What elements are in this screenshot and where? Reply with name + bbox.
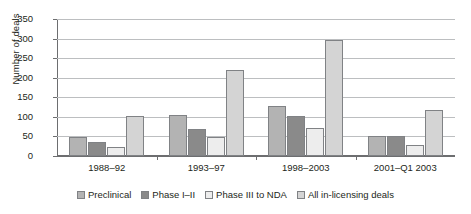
legend-item[interactable]: Phase I–II xyxy=(141,190,195,200)
legend-label: Phase I–II xyxy=(152,190,195,200)
chart-legend: PreclinicalPhase I–IIPhase III to NDAAll… xyxy=(0,190,471,200)
x-axis-labels: 1988–921993–971998–20032001–Q1 2003 xyxy=(57,162,455,173)
y-tick-label: 100 xyxy=(0,112,33,122)
bar-slot xyxy=(287,19,305,156)
bar-slot xyxy=(88,19,106,156)
bar[interactable] xyxy=(207,137,225,156)
bar[interactable] xyxy=(406,145,424,156)
bar[interactable] xyxy=(69,137,87,156)
bar-group xyxy=(57,19,157,156)
x-axis-label: 2001–Q1 2003 xyxy=(356,162,456,173)
y-tick-label: 350 xyxy=(0,14,33,24)
bar-slot xyxy=(188,19,206,156)
bar-slot xyxy=(387,19,405,156)
bar[interactable] xyxy=(368,136,386,156)
bar[interactable] xyxy=(287,116,305,156)
bar-slot xyxy=(325,19,343,156)
legend-swatch-icon xyxy=(77,191,85,199)
plot-area: 350300250200150100500 xyxy=(57,19,455,156)
y-tick-label: 300 xyxy=(0,34,33,44)
x-axis-label: 1998–2003 xyxy=(256,162,356,173)
bar[interactable] xyxy=(387,136,405,156)
bar-slot xyxy=(107,19,125,156)
y-tick-label: 150 xyxy=(0,92,33,102)
bar-slot xyxy=(226,19,244,156)
legend-item[interactable]: Phase III to NDA xyxy=(205,190,287,200)
legend-label: Phase III to NDA xyxy=(216,190,287,200)
bar[interactable] xyxy=(325,40,343,156)
bar[interactable] xyxy=(226,70,244,157)
bar[interactable] xyxy=(88,142,106,156)
bar-group xyxy=(256,19,356,156)
x-axis-tick xyxy=(356,156,357,160)
legend-label: All in-licensing deals xyxy=(308,190,394,200)
bar-slot xyxy=(169,19,187,156)
bar-slot xyxy=(406,19,424,156)
legend-swatch-icon xyxy=(141,191,149,199)
bar[interactable] xyxy=(107,147,125,156)
y-tick-mark xyxy=(53,156,57,157)
legend-swatch-icon xyxy=(297,191,305,199)
bar-chart: Number of deals 350300250200150100500 19… xyxy=(0,0,471,214)
bar-group xyxy=(356,19,456,156)
bar-slot xyxy=(126,19,144,156)
bar[interactable] xyxy=(169,115,187,156)
bar[interactable] xyxy=(268,106,286,156)
y-tick-label: 0 xyxy=(0,151,33,161)
bar[interactable] xyxy=(126,116,144,156)
bar-groups xyxy=(57,19,455,156)
x-axis-tick xyxy=(157,156,158,160)
x-axis-label: 1988–92 xyxy=(57,162,157,173)
x-axis-tick xyxy=(256,156,257,160)
legend-swatch-icon xyxy=(205,191,213,199)
legend-label: Preclinical xyxy=(88,190,131,200)
bar-slot xyxy=(207,19,225,156)
bar-slot xyxy=(306,19,324,156)
bar-slot xyxy=(268,19,286,156)
legend-item[interactable]: Preclinical xyxy=(77,190,131,200)
y-tick-label: 50 xyxy=(0,131,33,141)
bar[interactable] xyxy=(188,129,206,156)
bar-slot xyxy=(368,19,386,156)
bar-slot xyxy=(425,19,443,156)
x-axis-label: 1993–97 xyxy=(157,162,257,173)
bar-slot xyxy=(69,19,87,156)
bar[interactable] xyxy=(425,110,443,156)
y-tick-label: 250 xyxy=(0,53,33,63)
bar-group xyxy=(157,19,257,156)
y-tick-label: 200 xyxy=(0,73,33,83)
bar[interactable] xyxy=(306,128,324,156)
legend-item[interactable]: All in-licensing deals xyxy=(297,190,394,200)
